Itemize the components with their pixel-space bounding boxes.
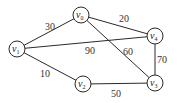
weight-v1-v4: 90 [85,45,95,56]
weight-v4-v3: 70 [157,54,167,65]
weight-v0-v3: 60 [123,46,133,57]
edge-v2-v3 [83,83,155,84]
weight-v1-v2: 10 [40,68,50,79]
node-v0: v0 [73,7,89,23]
node-v4: v4 [147,28,163,44]
weight-v1-v0: 30 [45,21,55,32]
weight-v0-v4: 20 [119,13,129,24]
edge-v1-v2 [17,49,83,84]
node-v1: v1 [9,41,25,57]
weight-v2-v3: 50 [111,88,121,99]
node-v2: v2 [75,76,91,92]
node-v3: v3 [147,75,163,91]
weighted-graph: 30 20 90 60 70 10 50 v0 v1 v2 v3 v4 [0,0,177,103]
